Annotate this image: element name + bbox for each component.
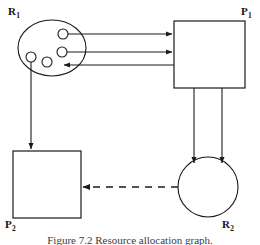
r1-instance-2	[57, 47, 67, 57]
node-label-p1-text: P	[241, 5, 248, 17]
node-label-r2: R2	[222, 219, 234, 230]
node-label-p1: P1	[241, 6, 251, 17]
r1-ellipse-outline	[18, 20, 86, 76]
node-label-p2-text: P	[5, 218, 12, 230]
resource-allocation-graph-figure: R1 P1 P2 R2 Figure 7.2 Resource allocati…	[0, 0, 260, 245]
node-label-r1-text: R	[8, 5, 16, 17]
node-label-r1: R1	[8, 6, 20, 17]
node-r2	[178, 157, 238, 217]
r1-instance-1	[58, 29, 68, 39]
r1-instance-3	[42, 57, 52, 67]
node-label-r2-text: R	[222, 218, 230, 230]
diagram-canvas	[0, 0, 260, 245]
node-p1-rect	[174, 21, 245, 88]
node-label-r1-sub: 1	[16, 11, 20, 20]
node-label-p1-sub: 1	[248, 11, 252, 20]
node-p2-rect	[13, 151, 81, 218]
node-label-r2-sub: 2	[230, 224, 234, 233]
node-label-p2-sub: 2	[12, 224, 16, 233]
node-r1	[18, 20, 86, 76]
node-label-p2: P2	[5, 219, 15, 230]
figure-caption: Figure 7.2 Resource allocation graph.	[0, 234, 260, 245]
r1-instance-4	[26, 52, 36, 62]
r2-circle-outline	[178, 157, 238, 217]
